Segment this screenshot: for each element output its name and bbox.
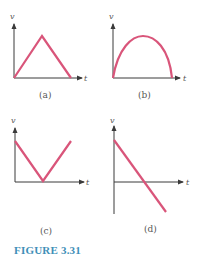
v-label: v	[109, 12, 114, 21]
panel-d: v t (d)	[110, 116, 190, 234]
panel-c: v t (c)	[11, 116, 90, 236]
curve-b	[113, 36, 172, 78]
panel-b: v t (b)	[109, 12, 187, 100]
t-label: t	[84, 74, 88, 83]
t-label: t	[183, 74, 187, 83]
figure-3-31: v t (a) v t (b) v t (c) v t (d)	[0, 0, 206, 265]
panel-a: v t (a)	[10, 12, 88, 100]
curve-d	[114, 140, 166, 212]
curve-c	[15, 141, 71, 181]
t-label: t	[86, 178, 90, 187]
caption-d: (d)	[144, 224, 157, 234]
v-label: v	[11, 116, 16, 125]
v-label: v	[110, 116, 115, 125]
v-label: v	[10, 12, 15, 21]
figure-label: FIGURE 3.31	[14, 244, 81, 256]
caption-a: (a)	[39, 90, 51, 100]
caption-c: (c)	[40, 226, 52, 236]
caption-b: (b)	[138, 90, 151, 100]
t-label: t	[186, 178, 190, 187]
curve-a	[14, 36, 71, 78]
